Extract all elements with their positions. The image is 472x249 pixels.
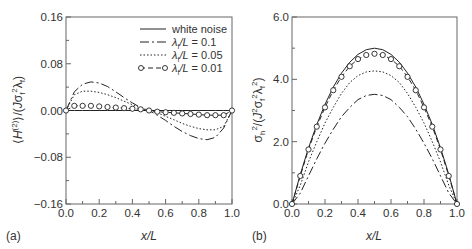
panel-b-tag: (b) — [252, 229, 267, 243]
x-tick-label: 0.4 — [124, 207, 141, 219]
panel-b-plot: 0.00.20.40.60.81.06.04.02.00.0 σh2/(J2σf… — [250, 11, 465, 243]
data-marker — [364, 52, 369, 57]
data-marker — [397, 64, 402, 69]
x-tick-label: 1.0 — [449, 207, 465, 219]
data-marker — [205, 113, 210, 118]
data-marker — [331, 88, 336, 93]
panel-a-xlabel: x/L — [140, 229, 157, 243]
data-marker — [213, 113, 218, 118]
y-tick-label: 2.0 — [273, 136, 289, 148]
data-marker — [72, 103, 77, 108]
y-tick-label: 0.0 — [273, 198, 289, 210]
x-tick-label: 0.2 — [91, 207, 107, 219]
panel-b-ylabel: σh2/(J2σf2λf2) — [250, 78, 267, 143]
x-tick-label: 0.6 — [383, 207, 399, 219]
y-tick-label: 0.16 — [41, 11, 63, 23]
x-tick-label: 0.6 — [158, 207, 174, 219]
data-marker — [105, 104, 110, 109]
legend-label: white noise — [171, 23, 227, 35]
data-marker — [339, 74, 344, 79]
panel-b-frame — [292, 17, 457, 204]
data-marker — [163, 110, 168, 115]
data-marker — [454, 201, 459, 206]
y-tick-label: 4.0 — [273, 73, 289, 85]
x-tick-label: 0.2 — [317, 207, 333, 219]
data-marker — [380, 52, 385, 57]
data-marker — [122, 106, 127, 111]
panel-b-curves — [289, 48, 459, 206]
series-line — [292, 71, 457, 204]
legend-label: λf/L = 0.01 — [171, 62, 223, 76]
data-marker — [80, 103, 85, 108]
data-marker — [229, 108, 234, 113]
data-marker — [138, 107, 143, 112]
panel-a-plot: 0.00.20.40.60.81.00.160.080.00−0.08−0.16… — [6, 11, 240, 243]
data-marker — [388, 56, 393, 61]
data-marker — [306, 147, 311, 152]
x-tick-label: 0.8 — [416, 207, 432, 219]
panel-a-curves — [63, 82, 234, 140]
data-marker — [221, 113, 226, 118]
x-tick-label: 1.0 — [224, 207, 240, 219]
data-marker — [421, 105, 426, 110]
series-line — [292, 94, 457, 204]
data-marker — [171, 110, 176, 115]
panel-b-ticks: 0.00.20.40.60.81.06.04.02.00.0 — [273, 11, 465, 219]
data-marker — [405, 74, 410, 79]
data-marker — [196, 112, 201, 117]
y-tick-label: −0.08 — [34, 151, 63, 163]
data-marker — [113, 105, 118, 110]
data-marker — [63, 108, 68, 113]
data-marker — [180, 111, 185, 116]
data-marker — [146, 108, 151, 113]
legend-label: λf/L = 0.1 — [171, 36, 216, 50]
data-marker — [155, 109, 160, 114]
data-marker — [97, 104, 102, 109]
y-tick-label: 0.08 — [41, 58, 63, 70]
data-marker — [446, 173, 451, 178]
data-marker — [298, 173, 303, 178]
data-marker — [130, 106, 135, 111]
data-marker — [322, 105, 327, 110]
data-marker — [88, 103, 93, 108]
data-marker — [430, 124, 435, 129]
x-tick-label: 0.4 — [350, 207, 367, 219]
data-marker — [314, 124, 319, 129]
data-marker — [355, 56, 360, 61]
data-marker — [289, 201, 294, 206]
legend: white noiseλf/L = 0.1λf/L = 0.05λf/L = 0… — [139, 23, 228, 76]
data-marker — [188, 111, 193, 116]
y-tick-label: 0.00 — [41, 105, 63, 117]
legend-label: λf/L = 0.05 — [171, 49, 223, 63]
y-tick-label: −0.16 — [34, 198, 63, 210]
figure: 0.00.20.40.60.81.00.160.080.00−0.08−0.16… — [0, 0, 472, 249]
data-marker — [347, 64, 352, 69]
data-marker — [413, 88, 418, 93]
panel-a-ylabel: ⟨H(2)⟩/(Jσf2λf) — [10, 76, 27, 144]
panel-a-tag: (a) — [6, 229, 21, 243]
data-marker — [438, 147, 443, 152]
x-tick-label: 0.8 — [191, 207, 207, 219]
data-marker — [372, 51, 377, 56]
panel-b-xlabel: x/L — [365, 229, 382, 243]
y-tick-label: 6.0 — [273, 11, 289, 23]
